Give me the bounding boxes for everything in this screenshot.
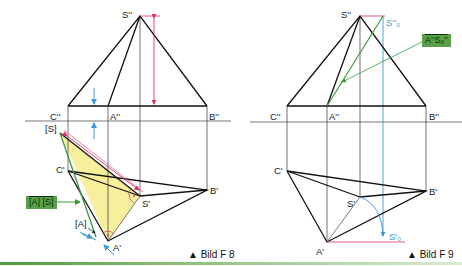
label-c-double-prime: C'' xyxy=(270,112,281,122)
label-b-double-prime: B'' xyxy=(209,112,219,122)
label-b-prime: B' xyxy=(210,186,218,196)
label-s-prime-0: S'₀ xyxy=(389,232,401,242)
label-s-double-prime-0: S''₀ xyxy=(386,18,400,28)
figure-f9 xyxy=(250,16,462,242)
callout-true-length-a-s0: A''S₀'' xyxy=(422,34,451,47)
figure-f8 xyxy=(25,16,231,255)
label-c-prime: C' xyxy=(274,166,283,176)
label-c-prime: C' xyxy=(56,165,65,175)
label-a-double-prime: A'' xyxy=(110,112,120,122)
caption-bild-f8: ▲ Bild F 8 xyxy=(188,250,235,260)
label-s-double-prime: S'' xyxy=(122,10,132,20)
label-b-double-prime: B'' xyxy=(429,112,439,122)
label-s-double-prime: S'' xyxy=(341,10,351,20)
label-a-prime: A' xyxy=(316,247,324,257)
callout-true-length-as: [A] [S] xyxy=(26,196,57,209)
label-a-double-prime: A'' xyxy=(329,112,339,122)
caption-bild-f9: ▲ Bild F 9 xyxy=(407,250,454,260)
bottom-divider xyxy=(0,262,462,265)
label-s-folded: [S] xyxy=(45,124,57,134)
diagram-stage: S'' C'' A'' B'' [S] C' S' B' A' [A] [A] … xyxy=(0,0,462,266)
label-a-folded: [A] xyxy=(75,219,87,229)
label-s-prime: S' xyxy=(347,199,355,209)
label-c-double-prime: C'' xyxy=(50,112,61,122)
projection-drawings xyxy=(0,0,462,266)
label-a-prime: A' xyxy=(113,243,121,253)
label-s-prime: S' xyxy=(142,199,150,209)
label-b-prime: B' xyxy=(429,187,437,197)
